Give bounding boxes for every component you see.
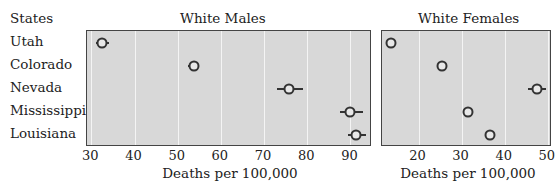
data-point [351, 130, 362, 141]
gridline [505, 31, 506, 145]
gridline [462, 31, 463, 145]
x-tick-label: 50 [168, 148, 185, 163]
x-tick-label: 80 [298, 148, 315, 163]
state-label: Mississippi [10, 102, 86, 118]
gridline [264, 31, 265, 145]
gridline [307, 31, 308, 145]
x-tick-label: 60 [212, 148, 229, 163]
x-tick-label: 50 [538, 148, 555, 163]
gridline [91, 31, 92, 145]
x-tick-label: 40 [495, 148, 512, 163]
data-point [385, 38, 396, 49]
gridline [135, 31, 136, 145]
gridline [221, 31, 222, 145]
data-point [484, 130, 495, 141]
states-header: States [10, 10, 53, 26]
x-tick-label: 30 [82, 148, 99, 163]
data-point [283, 84, 294, 95]
data-point [189, 61, 200, 72]
data-point [437, 61, 448, 72]
x-tick-label: 70 [255, 148, 272, 163]
females-x-axis-label: Deaths per 100,000 [400, 165, 535, 181]
data-point [97, 38, 108, 49]
data-point [531, 84, 542, 95]
females-plot-panel [381, 30, 551, 146]
x-tick-label: 20 [409, 148, 426, 163]
gridline [548, 31, 549, 145]
females-panel-title: White Females [418, 10, 519, 26]
state-label: Colorado [10, 56, 72, 72]
state-label: Utah [10, 33, 44, 49]
x-tick-label: 30 [452, 148, 469, 163]
x-tick-label: 40 [125, 148, 142, 163]
data-point [463, 107, 474, 118]
gridline [350, 31, 351, 145]
state-label: Nevada [10, 79, 62, 95]
data-point [345, 107, 356, 118]
x-tick-label: 90 [341, 148, 358, 163]
state-label: Louisiana [10, 125, 76, 141]
males-panel-title: White Males [180, 10, 266, 26]
males-plot-panel [86, 30, 371, 146]
gridline [178, 31, 179, 145]
males-x-axis-label: Deaths per 100,000 [162, 165, 297, 181]
gridline [419, 31, 420, 145]
